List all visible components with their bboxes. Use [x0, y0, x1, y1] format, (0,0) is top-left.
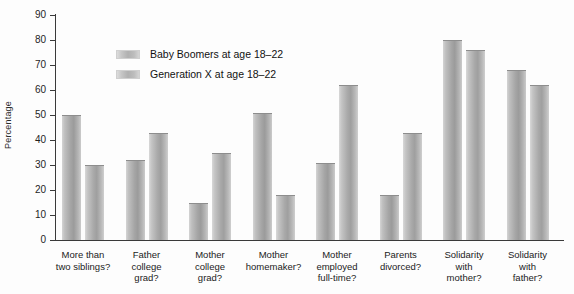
bar — [530, 85, 549, 240]
y-axis-tick-mark — [50, 240, 56, 241]
x-axis-category-label: Solidarity with mother? — [435, 249, 493, 284]
bar — [339, 85, 358, 240]
bar — [85, 165, 104, 240]
y-axis-tick-label: 30 — [22, 160, 46, 170]
bar — [276, 195, 295, 240]
legend-swatch-icon — [116, 70, 140, 79]
y-axis-tick-label: 40 — [22, 135, 46, 145]
y-axis-tick-label: 70 — [22, 60, 46, 70]
bar — [507, 70, 526, 240]
y-axis-tick-label: 20 — [22, 185, 46, 195]
legend-item-label: Baby Boomers at age 18–22 — [150, 48, 283, 60]
x-axis-category-label: Father college grad? — [118, 249, 176, 284]
x-axis-category-label: Mother homemaker? — [245, 249, 303, 272]
y-axis-tick-label: 50 — [22, 110, 46, 120]
bar — [62, 115, 81, 240]
legend-item: Generation X at age 18–22 — [116, 66, 283, 82]
bar — [443, 40, 462, 240]
legend-swatch-icon — [116, 50, 140, 59]
bar — [189, 203, 208, 241]
y-axis-tick-label: 10 — [22, 210, 46, 220]
x-axis-line — [55, 240, 564, 241]
x-axis-category-label: Mother employed full-time? — [308, 249, 366, 284]
bar — [212, 153, 231, 241]
bar — [149, 133, 168, 241]
y-axis-title: Percentage — [0, 70, 16, 180]
bar — [253, 113, 272, 241]
bar — [403, 133, 422, 241]
x-axis-category-label: Parents divorced? — [372, 249, 430, 272]
x-axis-category-label: Mother college grad? — [181, 249, 239, 284]
y-axis-tick-label: 80 — [22, 35, 46, 45]
chart-legend: Baby Boomers at age 18–22 Generation X a… — [116, 46, 283, 86]
bar — [126, 160, 145, 240]
bar — [380, 195, 399, 240]
bar — [316, 163, 335, 241]
y-axis-tick-label: 0 — [22, 235, 46, 245]
x-axis-category-label: Solidarity with father? — [499, 249, 557, 284]
legend-item: Baby Boomers at age 18–22 — [116, 46, 283, 62]
bar-chart-figure: Percentage 0102030405060708090 More than… — [0, 0, 574, 294]
y-axis-tick-label: 90 — [22, 10, 46, 20]
legend-item-label: Generation X at age 18–22 — [150, 68, 276, 80]
bar — [466, 50, 485, 240]
y-axis-tick-label: 60 — [22, 85, 46, 95]
x-axis-category-label: More than two siblings? — [54, 249, 112, 272]
y-axis-title-text: Percentage — [3, 101, 13, 149]
